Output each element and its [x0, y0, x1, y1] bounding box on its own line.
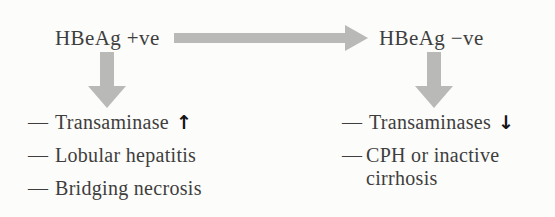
- list-item: — Lobular hepatitis: [28, 144, 308, 167]
- down-arrow-icon: [88, 52, 126, 108]
- flow-diagram: HBeAg +ve HBeAg −ve — Transaminase ↑ — L…: [0, 0, 555, 217]
- item-text: Lobular hepatitis: [55, 144, 196, 167]
- item-text: CPH or inactive cirrhosis: [366, 144, 538, 190]
- node-hbeag-negative: HBeAg −ve: [379, 25, 484, 51]
- dash-bullet: —: [28, 177, 47, 200]
- dash-bullet: —: [342, 144, 361, 167]
- list-item: — Transaminase ↑: [28, 111, 308, 134]
- list-item: — Transaminases ↓: [342, 111, 538, 134]
- list-item: — CPH or inactive cirrhosis: [342, 144, 538, 190]
- up-arrow-icon: ↑: [176, 111, 192, 134]
- item-text: Transaminases: [369, 111, 491, 134]
- item-text: Transaminase: [55, 111, 169, 134]
- down-arrow-icon: ↓: [498, 111, 514, 134]
- list-item: — Bridging necrosis: [28, 177, 308, 200]
- right-arrow-icon: [174, 25, 368, 51]
- dash-bullet: —: [342, 111, 361, 134]
- right-findings-list: — Transaminases ↓ — CPH or inactive cirr…: [342, 111, 538, 200]
- left-findings-list: — Transaminase ↑ — Lobular hepatitis — B…: [28, 111, 308, 210]
- item-text: Bridging necrosis: [55, 177, 202, 200]
- down-arrow-icon: [415, 52, 453, 108]
- node-hbeag-positive: HBeAg +ve: [55, 25, 160, 51]
- dash-bullet: —: [28, 144, 47, 167]
- dash-bullet: —: [28, 111, 47, 134]
